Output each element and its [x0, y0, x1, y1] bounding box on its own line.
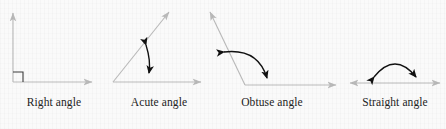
- panel-straight-angle: Straight angle: [344, 0, 446, 129]
- caption-right-angle: Right angle: [0, 96, 108, 108]
- acute-angle-arc: [146, 45, 150, 73]
- panel-obtuse-angle: Obtuse angle: [196, 0, 348, 129]
- straight-angle-diagram: [344, 0, 446, 96]
- right-angle-square-marker: [13, 72, 23, 82]
- straight-angle-arc: [374, 64, 416, 77]
- acute-angle-oblique-ray: [113, 12, 169, 82]
- caption-obtuse-angle: Obtuse angle: [196, 96, 348, 108]
- panel-right-angle: Right angle: [0, 0, 108, 129]
- obtuse-angle-oblique-ray: [210, 12, 245, 85]
- angle-types-figure: Right angle Acute angle: [0, 0, 446, 129]
- caption-straight-angle: Straight angle: [344, 96, 446, 108]
- obtuse-angle-diagram: [196, 0, 348, 96]
- right-angle-diagram: [0, 0, 108, 96]
